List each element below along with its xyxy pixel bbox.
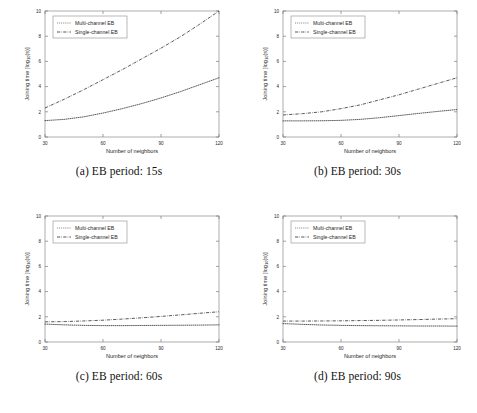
subfigure-a: 0246810306090120Number of neighborsJoini… <box>0 0 238 205</box>
y-tick-label: 4 <box>38 84 41 89</box>
y-tick-label: 0 <box>276 135 279 140</box>
y-tick-label: 2 <box>276 315 279 320</box>
y-axis-title-main: Joining time [log <box>24 60 30 100</box>
x-axis-title: Number of neighbors <box>105 148 157 154</box>
x-tick-label: 90 <box>158 141 164 146</box>
plot-b: 0246810306090120Number of neighborsJoini… <box>250 4 465 164</box>
y-tick-label: 4 <box>38 289 41 294</box>
x-tick-label: 30 <box>280 141 286 146</box>
subcaption-a: (a) EB period: 15s <box>76 165 162 177</box>
y-tick-label: 2 <box>38 110 41 115</box>
x-tick-label: 60 <box>100 141 106 146</box>
y-tick-label: 10 <box>274 214 280 219</box>
x-axis-title: Number of neighbors <box>344 148 396 154</box>
y-tick-label: 8 <box>276 239 279 244</box>
subcaption-b: (b) EB period: 30s <box>314 165 401 177</box>
series-line-multi-channel <box>283 324 457 327</box>
x-tick-label: 90 <box>396 141 402 146</box>
plot-d: 0246810306090120Number of neighborsJoini… <box>250 209 465 369</box>
y-axis-title-main: Joining time [log <box>262 265 268 305</box>
legend-label-single-channel: Single-channel EB <box>75 234 118 240</box>
chart-svg-c: 0246810306090120Number of neighborsJoini… <box>12 209 227 369</box>
y-tick-label: 8 <box>38 34 41 39</box>
y-tick-label: 6 <box>276 264 279 269</box>
plot-a: 0246810306090120Number of neighborsJoini… <box>12 4 227 164</box>
y-tick-label: 2 <box>38 315 41 320</box>
x-tick-label: 90 <box>396 346 402 351</box>
y-axis-title: Joining time [log10(s)] <box>24 252 31 306</box>
y-axis-title-tail: (s)] <box>262 47 268 56</box>
y-tick-label: 2 <box>276 110 279 115</box>
y-tick-label: 0 <box>38 340 41 345</box>
x-tick-label: 120 <box>453 141 461 146</box>
series-line-multi-channel <box>45 78 219 121</box>
y-axis-title-main: Joining time [log <box>24 265 30 305</box>
y-axis-title-tail: (s)] <box>24 47 30 56</box>
y-axis-title-main: Joining time [log <box>262 60 268 100</box>
y-axis-title-tail: (s)] <box>24 252 30 261</box>
x-tick-label: 120 <box>453 346 461 351</box>
legend-label-multi-channel: Multi-channel EB <box>313 225 353 231</box>
y-tick-label: 10 <box>274 9 280 14</box>
figure-grid: 0246810306090120Number of neighborsJoini… <box>0 0 477 413</box>
y-tick-label: 10 <box>35 9 41 14</box>
legend-label-single-channel: Single-channel EB <box>313 29 356 35</box>
subfigure-b: 0246810306090120Number of neighborsJoini… <box>238 0 477 205</box>
y-tick-label: 0 <box>276 340 279 345</box>
chart-svg-b: 0246810306090120Number of neighborsJoini… <box>250 4 465 164</box>
subcaption-d: (d) EB period: 90s <box>314 370 401 382</box>
chart-svg-a: 0246810306090120Number of neighborsJoini… <box>12 4 227 164</box>
y-tick-label: 10 <box>35 214 41 219</box>
x-tick-label: 60 <box>338 346 344 351</box>
y-tick-label: 8 <box>276 34 279 39</box>
x-tick-label: 60 <box>338 141 344 146</box>
y-tick-label: 4 <box>276 84 279 89</box>
x-tick-label: 30 <box>42 346 48 351</box>
x-tick-label: 90 <box>158 346 164 351</box>
y-axis-title: Joining time [log10(s)] <box>262 252 269 306</box>
plot-c: 0246810306090120Number of neighborsJoini… <box>12 209 227 369</box>
series-line-multi-channel <box>45 324 219 326</box>
y-tick-label: 6 <box>38 59 41 64</box>
y-tick-label: 6 <box>276 59 279 64</box>
legend-label-multi-channel: Multi-channel EB <box>75 20 115 26</box>
y-tick-label: 4 <box>276 289 279 294</box>
x-tick-label: 120 <box>215 141 223 146</box>
y-tick-label: 8 <box>38 239 41 244</box>
x-axis-title: Number of neighbors <box>344 353 396 359</box>
x-tick-label: 60 <box>100 346 106 351</box>
subfigure-c: 0246810306090120Number of neighborsJoini… <box>0 205 238 413</box>
series-line-multi-channel <box>283 110 457 121</box>
series-line-single-channel <box>283 319 457 321</box>
x-tick-label: 30 <box>280 346 286 351</box>
y-tick-label: 0 <box>38 135 41 140</box>
legend-label-single-channel: Single-channel EB <box>75 29 118 35</box>
y-axis-title-tail: (s)] <box>262 252 268 261</box>
y-axis-title: Joining time [log10(s)] <box>24 47 31 101</box>
series-line-single-channel <box>45 312 219 322</box>
legend-label-single-channel: Single-channel EB <box>313 234 356 240</box>
subcaption-c: (c) EB period: 60s <box>76 370 162 382</box>
series-line-single-channel <box>283 78 457 115</box>
legend-label-multi-channel: Multi-channel EB <box>75 225 115 231</box>
y-tick-label: 6 <box>38 264 41 269</box>
x-tick-label: 120 <box>215 346 223 351</box>
legend-label-multi-channel: Multi-channel EB <box>313 20 353 26</box>
y-axis-title: Joining time [log10(s)] <box>262 47 269 101</box>
chart-svg-d: 0246810306090120Number of neighborsJoini… <box>250 209 465 369</box>
subfigure-d: 0246810306090120Number of neighborsJoini… <box>238 205 477 413</box>
x-axis-title: Number of neighbors <box>105 353 157 359</box>
x-tick-label: 30 <box>42 141 48 146</box>
